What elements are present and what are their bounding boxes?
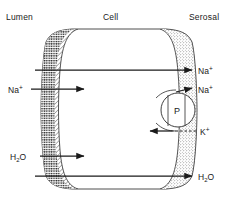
label-k-pump-entry: K+ [200, 126, 210, 137]
pump-label: P [174, 106, 180, 116]
column-label-cell: Cell [103, 12, 118, 22]
column-label-serosal: Serosal [189, 12, 219, 22]
column-label-lumen: Lumen [6, 12, 33, 22]
label-na-pump-exit: Na+ [198, 84, 213, 95]
label-h2o-entry: H2O [10, 152, 26, 163]
transport-diagram-figure: Lumen Cell Serosal Na+ [0, 0, 233, 217]
label-h2o-transcellular: H2O [198, 172, 214, 183]
label-na-entry: Na+ [8, 84, 23, 95]
label-na-transcellular: Na+ [198, 65, 213, 76]
sodium-potassium-pump: P [161, 93, 195, 127]
